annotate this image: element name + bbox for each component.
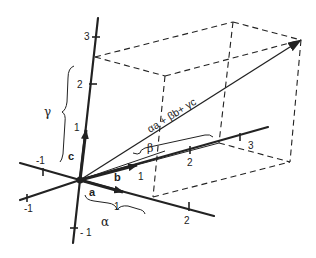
projection-line	[80, 151, 165, 180]
label-b-minus1: -1	[24, 203, 33, 214]
vector-c	[80, 130, 86, 180]
resultant-label: αa + βb+ γc	[145, 95, 198, 134]
label-beta: β	[147, 142, 153, 155]
parallelepiped-box	[95, 22, 301, 197]
label-c-minus1: - 1	[80, 227, 92, 238]
label-gamma: γ	[44, 105, 51, 119]
box-edge	[233, 22, 301, 40]
diagram-canvas: 3 2 1 - 1 1 2 -1 1 2 3 -1 c a b γ α β αa…	[0, 0, 316, 258]
box-edge	[153, 162, 290, 197]
beta-brace	[133, 135, 213, 154]
braces	[60, 66, 213, 214]
basis-vectors	[80, 130, 137, 192]
vector-labels: c a b	[68, 150, 121, 198]
origin-point	[77, 177, 84, 184]
box-edge	[153, 76, 165, 197]
label-b2: 2	[187, 157, 193, 168]
b-axis-negative	[20, 180, 80, 200]
a-axis-negative	[20, 163, 80, 180]
box-edge	[290, 40, 301, 162]
box-edge	[95, 57, 165, 76]
label-c1: 1	[74, 122, 80, 133]
box-edge	[219, 22, 233, 143]
label-a1: 1	[114, 201, 120, 212]
label-vector-a: a	[89, 186, 96, 198]
label-a-minus1: -1	[36, 155, 45, 166]
label-a2: 2	[184, 215, 190, 226]
label-c3: 3	[84, 31, 90, 42]
vector-diagram: 3 2 1 - 1 1 2 -1 1 2 3 -1 c a b γ α β αa…	[0, 0, 316, 258]
label-vector-b: b	[114, 171, 121, 183]
axis-ticks	[27, 37, 240, 228]
label-alpha: α	[101, 215, 109, 229]
box-edge	[95, 22, 233, 57]
axes	[20, 18, 268, 243]
label-vector-c: c	[68, 150, 74, 162]
label-b3: 3	[248, 140, 254, 151]
gamma-brace	[60, 66, 74, 162]
box-edge	[219, 143, 290, 162]
box-edge	[165, 40, 301, 76]
label-c2: 2	[77, 79, 83, 90]
label-b1: 1	[138, 171, 144, 182]
